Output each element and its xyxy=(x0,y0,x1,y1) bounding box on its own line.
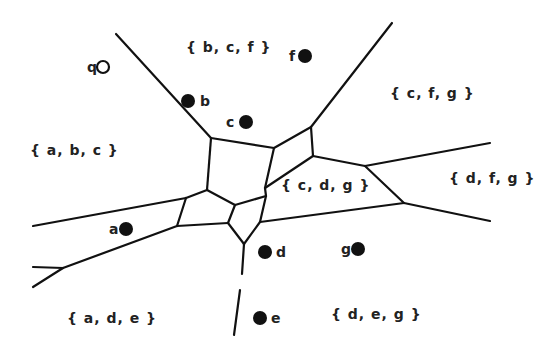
voronoi-edge xyxy=(260,196,266,222)
voronoi-edge xyxy=(207,190,235,205)
site-g: g xyxy=(341,241,365,257)
site-point-marker xyxy=(119,222,133,236)
region-label-abc: { a, b, c } xyxy=(30,142,119,158)
voronoi-edge xyxy=(228,205,235,223)
site-label: d xyxy=(276,244,286,260)
region-label-cdg: { c, d, g } xyxy=(281,177,370,193)
site-b: b xyxy=(181,93,210,109)
voronoi-edge xyxy=(260,203,404,222)
site-q: q xyxy=(87,59,109,75)
voronoi-edge xyxy=(311,127,313,156)
voronoi-edge xyxy=(404,203,490,221)
region-label-bcf: { b, c, f } xyxy=(186,39,271,55)
site-point-marker xyxy=(258,245,272,259)
region-label-deg: { d, e, g } xyxy=(331,306,422,322)
voronoi-edge xyxy=(244,222,260,244)
voronoi-edge xyxy=(33,268,63,287)
voronoi-edge xyxy=(234,290,240,335)
voronoi-edge xyxy=(228,223,244,244)
site-label: c xyxy=(226,114,234,130)
voronoi-edge xyxy=(365,143,490,166)
site-e: e xyxy=(253,310,281,326)
diagram-svg: qbcfadge { b, c, f }{ c, f, g }{ a, b, c… xyxy=(0,0,542,355)
site-point-marker xyxy=(181,94,195,108)
site-a: a xyxy=(109,221,133,237)
site-label: f xyxy=(289,48,296,64)
site-point-marker xyxy=(298,49,312,63)
site-label: b xyxy=(200,93,210,109)
voronoi-edge xyxy=(177,223,228,226)
voronoi-edge xyxy=(265,188,266,196)
query-point-marker xyxy=(97,61,109,73)
voronoi-edge xyxy=(186,190,207,198)
voronoi-edge xyxy=(211,138,274,148)
voronoi-edge xyxy=(365,166,404,203)
site-point-marker xyxy=(253,311,267,325)
site-point-marker xyxy=(239,115,253,129)
voronoi-edge xyxy=(33,267,63,268)
site-f: f xyxy=(289,48,312,64)
site-d: d xyxy=(258,244,286,260)
region-labels: { b, c, f }{ c, f, g }{ a, b, c }{ c, d,… xyxy=(30,39,535,326)
site-label: a xyxy=(109,221,118,237)
voronoi-edge xyxy=(177,198,186,226)
site-point-marker xyxy=(351,242,365,256)
voronoi-edge xyxy=(242,244,244,274)
voronoi-edge xyxy=(207,138,211,190)
site-label: q xyxy=(87,59,97,75)
site-c: c xyxy=(226,114,253,130)
voronoi-diagram: qbcfadge { b, c, f }{ c, f, g }{ a, b, c… xyxy=(0,0,542,355)
region-label-cfg: { c, f, g } xyxy=(390,85,475,101)
voronoi-edge xyxy=(235,196,266,205)
site-label: e xyxy=(271,310,281,326)
site-label: g xyxy=(341,241,351,257)
voronoi-edge xyxy=(274,127,311,148)
region-label-ade: { a, d, e } xyxy=(67,310,157,326)
region-label-dfg: { d, f, g } xyxy=(449,170,535,186)
voronoi-edge xyxy=(311,23,392,127)
voronoi-edge xyxy=(313,156,365,166)
